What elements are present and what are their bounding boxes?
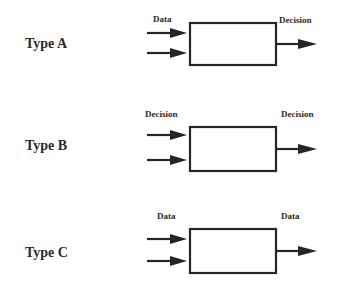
process-box	[190, 23, 276, 65]
process-box	[190, 229, 276, 273]
row-type-c: Type C Data Data	[25, 211, 317, 273]
type-c-output-label: Data	[281, 211, 300, 221]
output-arrow-icon	[277, 144, 317, 154]
input-arrow-icon	[147, 234, 187, 244]
type-c-input-label: Data	[157, 211, 176, 221]
input-arrow-icon	[147, 256, 187, 266]
type-b-label: Type B	[25, 138, 67, 153]
input-arrow-icon	[147, 155, 187, 165]
process-box	[190, 127, 276, 171]
row-type-a: Type A Data Decision	[25, 14, 317, 65]
type-b-output-label: Decision	[281, 109, 314, 119]
output-arrow-icon	[277, 246, 317, 256]
type-c-label: Type C	[25, 245, 68, 260]
row-type-b: Type B Decision Decision	[25, 109, 317, 171]
type-b-input-label: Decision	[145, 109, 178, 119]
type-diagram: Type A Data Decision Type B Decision Dec…	[0, 0, 337, 288]
input-arrow-icon	[147, 28, 187, 38]
type-a-label: Type A	[25, 36, 68, 51]
output-arrow-icon	[277, 39, 317, 49]
input-arrow-icon	[147, 130, 187, 140]
type-a-input-label: Data	[153, 14, 172, 24]
type-a-output-label: Decision	[279, 15, 312, 25]
input-arrow-icon	[147, 48, 187, 58]
